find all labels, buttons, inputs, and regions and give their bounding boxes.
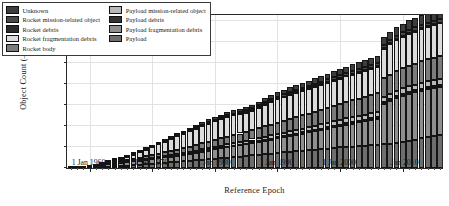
bar-segment (249, 155, 255, 168)
legend-swatch (6, 35, 19, 43)
x-minor-tick (365, 168, 366, 170)
bar-segment (293, 93, 299, 117)
bar-segment (406, 20, 412, 29)
bar-segment (199, 122, 205, 124)
bar-segment (406, 66, 412, 86)
bar-segment (243, 107, 249, 111)
bar-segment (118, 166, 124, 168)
bar-segment (218, 119, 224, 138)
bar-segment (394, 27, 400, 35)
bar-segment (387, 101, 393, 144)
x-minor-tick (421, 168, 422, 170)
bar-segment (212, 121, 218, 140)
legend-label: Rocket mission-related object (23, 15, 101, 24)
bar-segment (394, 91, 400, 96)
bar-segment (368, 113, 374, 118)
bar-segment (437, 56, 442, 79)
bar-segment (193, 145, 199, 151)
bar-segment (293, 90, 299, 92)
x-minor-tick (359, 168, 360, 170)
bar-segment (419, 29, 425, 61)
table-row (381, 37, 387, 168)
x-minor-tick (127, 168, 128, 170)
x-tick-label: 1 Jan 2000 (322, 158, 356, 167)
table-row (318, 76, 324, 168)
bar-segment (256, 128, 262, 138)
bar-segment (300, 129, 306, 133)
table-row (331, 71, 337, 168)
x-minor-tick (309, 168, 310, 170)
bar-segment (381, 104, 387, 144)
bar-segment (118, 157, 124, 159)
bar-segment (387, 94, 393, 99)
table-row (419, 15, 425, 168)
bar-segment (375, 67, 381, 93)
bar-segment (437, 19, 442, 23)
legend: UnknownRocket mission-related objectRock… (2, 2, 211, 56)
bar-segment (381, 49, 387, 78)
bar-segment (431, 21, 437, 25)
bar-segment (300, 151, 306, 168)
bar-segment (400, 24, 406, 33)
bar-segment (431, 25, 437, 57)
bar-segment (256, 138, 262, 141)
bar-segment (419, 138, 425, 168)
x-minor-tick (346, 168, 347, 170)
table-row (237, 109, 243, 168)
bar-segment (249, 111, 255, 131)
x-minor-tick (133, 168, 134, 170)
bar-segment (174, 150, 180, 154)
bar-segment (268, 99, 274, 101)
bar-segment (331, 127, 337, 148)
legend-label: Unknown (23, 6, 49, 15)
bar-segment (237, 114, 243, 133)
bar-segment (406, 34, 412, 66)
bar-segment (300, 115, 306, 128)
bar-segment (212, 147, 218, 149)
legend-swatch (109, 16, 122, 24)
table-row (368, 58, 374, 168)
bar-segment (318, 124, 324, 128)
bar-segment (412, 90, 418, 92)
legend-label: Rocket fragmentation debris (23, 34, 97, 43)
x-minor-tick (183, 168, 184, 170)
x-minor-tick (165, 168, 166, 170)
figure: Object Count (–) Reference Epoch Unknown… (0, 0, 449, 206)
bar-segment (343, 67, 349, 73)
x-minor-tick (390, 168, 391, 170)
bar-segment (375, 63, 381, 66)
bar-segment (306, 127, 312, 131)
bar-segment (387, 44, 393, 75)
x-minor-tick (96, 168, 97, 170)
bar-segment (306, 86, 312, 89)
x-axis-title: Reference Epoch (66, 186, 443, 195)
bar-segment (149, 145, 155, 147)
bar-segment (174, 136, 180, 149)
legend-column-1: UnknownRocket mission-related objectRock… (6, 6, 100, 53)
x-minor-tick (246, 168, 247, 170)
bar-segment (231, 115, 237, 135)
bar-segment (281, 97, 287, 121)
legend-item: Rocket fragmentation debris (6, 34, 100, 43)
bar-segment (318, 76, 324, 82)
bar-segment (293, 151, 299, 168)
legend-item: Rocket debris (6, 25, 100, 34)
bar-segment (400, 68, 406, 88)
bar-segment (162, 152, 168, 156)
bar-segment (337, 69, 343, 75)
legend-swatch (109, 35, 122, 43)
table-row (293, 85, 299, 168)
bar-segment (281, 137, 287, 152)
bar-segment (356, 116, 362, 121)
bar-segment (249, 105, 255, 109)
bar-segment (325, 123, 331, 127)
bar-segment (243, 113, 249, 132)
bar-segment (275, 134, 281, 137)
table-row (181, 131, 187, 168)
bar-segment (318, 130, 324, 149)
x-minor-tick (108, 168, 109, 170)
bar-segment (387, 75, 393, 94)
bar-segment (156, 142, 162, 144)
bar-segment (118, 163, 124, 166)
x-minor-tick (384, 168, 385, 170)
